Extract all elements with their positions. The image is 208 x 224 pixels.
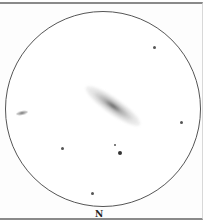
- star: [114, 144, 116, 146]
- star: [91, 192, 94, 195]
- star: [180, 121, 183, 124]
- star: [153, 46, 156, 49]
- star: [118, 151, 122, 155]
- star: [61, 147, 64, 150]
- north-label: N: [93, 209, 105, 219]
